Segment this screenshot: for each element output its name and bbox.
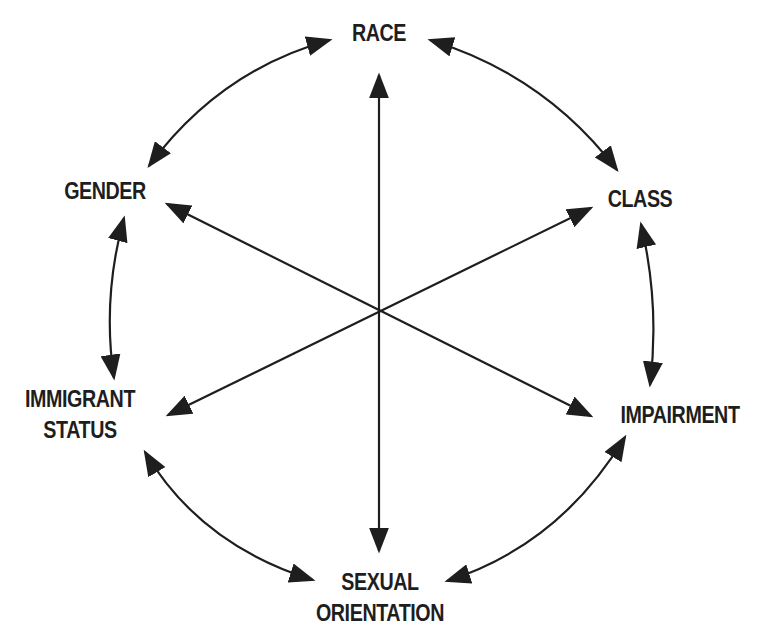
arc-impairment-sexual-orientation (447, 437, 625, 581)
connector-lines (0, 0, 770, 637)
arc-sexual-orientation-immigrant-status (145, 452, 313, 580)
node-immigrant-status: IMMIGRANT STATUS (10, 383, 149, 445)
arc-class-impairment (641, 224, 653, 385)
node-sexual-orientation: SEXUAL ORIENTATION (306, 566, 454, 628)
node-gender: GENDER (56, 175, 154, 206)
node-race-label: RACE (338, 17, 420, 48)
node-class: CLASS (599, 183, 681, 214)
node-impairment-label: IMPAIRMENT (606, 399, 754, 430)
arc-gender-race (149, 40, 330, 166)
node-impairment: IMPAIRMENT (606, 399, 754, 430)
intersectionality-diagram: RACE CLASS IMPAIRMENT SEXUAL ORIENTATION… (0, 0, 770, 637)
node-gender-label: GENDER (56, 175, 154, 206)
arc-immigrant-status-gender (110, 218, 124, 378)
node-sexual-orientation-line2: ORIENTATION (306, 597, 454, 628)
node-immigrant-status-line2: STATUS (10, 414, 149, 445)
node-class-label: CLASS (599, 183, 681, 214)
node-sexual-orientation-line1: SEXUAL (306, 566, 454, 597)
node-race: RACE (338, 17, 420, 48)
arc-race-class (430, 40, 617, 170)
node-immigrant-status-line1: IMMIGRANT (10, 383, 149, 414)
